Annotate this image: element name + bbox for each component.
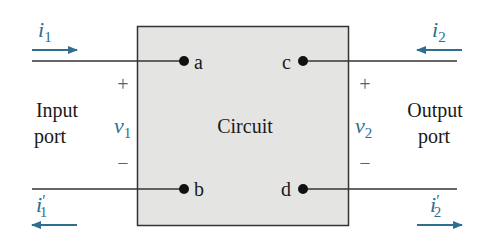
terminal-c-dot [298, 56, 308, 66]
circuit-label: Circuit [217, 115, 273, 137]
terminal-b-dot [179, 184, 189, 194]
terminal-a-label: a [194, 51, 203, 73]
v1-symbol: v1 [114, 113, 131, 141]
i1-prime-label: i′1 [36, 192, 47, 220]
v2-symbol: v2 [355, 113, 372, 141]
output-port-label-line2: port [418, 125, 451, 148]
i2-label: i2 [432, 17, 446, 45]
v1-plus-sign: + [117, 73, 128, 95]
v1-minus-sign: − [117, 152, 128, 174]
terminal-d-label: d [281, 178, 291, 200]
input-port-label-line2: port [34, 125, 67, 148]
v2-plus-sign: + [359, 73, 370, 95]
input-port-label-line1: Input [36, 99, 79, 122]
terminal-c-label: c [282, 51, 291, 73]
output-port-label-line1: Output [407, 99, 463, 122]
terminal-a-dot [179, 56, 189, 66]
two-port-diagram: a b c d Circuit Input port Output port +… [0, 0, 493, 248]
terminal-b-label: b [194, 178, 204, 200]
i1-label: i1 [38, 17, 52, 45]
i2-prime-label: i′2 [430, 192, 441, 220]
v2-minus-sign: − [359, 152, 370, 174]
terminal-d-dot [298, 184, 308, 194]
